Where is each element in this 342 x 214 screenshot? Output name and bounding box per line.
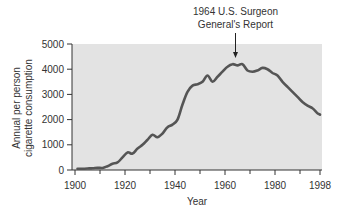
y-axis-title-line-2: cigarette consumption: [23, 59, 34, 157]
x-tick-label: 1998: [309, 180, 332, 191]
line-chart: 010002000300040005000 190019201940196019…: [0, 0, 342, 214]
plot-area: [72, 44, 322, 170]
y-tick-label: 1000: [42, 139, 65, 150]
x-tick-label: 1980: [264, 180, 287, 191]
y-tick-label: 2000: [42, 114, 65, 125]
annotation-line-1: 1964 U.S. Surgeon: [193, 6, 278, 17]
x-tick-label: 1960: [214, 180, 237, 191]
y-axis: 010002000300040005000: [42, 39, 72, 176]
y-tick-label: 5000: [42, 39, 65, 50]
x-tick-label: 1940: [164, 180, 187, 191]
y-tick-label: 4000: [42, 64, 65, 75]
y-tick-label: 0: [58, 165, 64, 176]
y-tick-label: 3000: [42, 89, 65, 100]
y-axis-title: Annual per person cigarette consumption: [11, 59, 34, 157]
y-axis-title-line-1: Annual per person: [11, 67, 22, 149]
annotation-line-2: General's Report: [198, 19, 274, 30]
x-axis: 190019201940196019801998: [64, 170, 332, 191]
x-tick-label: 1900: [64, 180, 87, 191]
x-tick-label: 1920: [114, 180, 137, 191]
x-axis-title: Year: [187, 196, 208, 207]
